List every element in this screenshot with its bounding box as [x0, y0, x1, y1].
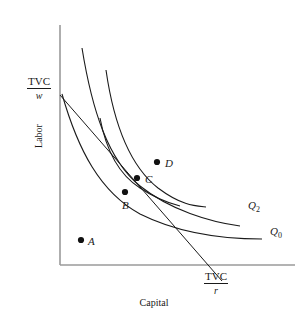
labor-intercept-denominator: w [27, 89, 51, 101]
capital-intercept-numerator: TVC [204, 270, 228, 284]
diagram-canvas [0, 0, 306, 324]
curve-label-q2-subscript: 2 [256, 205, 260, 214]
x-axis-title-wrapper: Capital [104, 292, 204, 310]
curve-label-q0-subscript: 0 [278, 231, 282, 240]
y-axis-title: Labor [33, 124, 44, 148]
x-axis-title: Capital [140, 297, 169, 308]
data-point-c [134, 175, 140, 181]
labor-intercept-numerator: TVC [27, 75, 51, 89]
point-label-c: C [145, 174, 152, 185]
isoquant-isocost-figure: TVC w TVC r A B C D Q2 Q0 Labor Capital [0, 0, 306, 324]
capital-intercept-label: TVC r [204, 270, 228, 296]
curve-label-q0: Q0 [270, 226, 282, 240]
data-point-d [154, 159, 160, 165]
point-label-d: D [165, 158, 173, 169]
y-axis-title-wrapper: Labor [28, 106, 44, 166]
isoquant-curve-q0 [62, 94, 262, 239]
curve-label-q2: Q2 [248, 200, 260, 214]
capital-intercept-denominator: r [204, 284, 228, 296]
point-label-b: B [122, 200, 129, 211]
curve-label-q2-base: Q [248, 199, 256, 211]
isoquant-curve-middle [106, 70, 206, 207]
point-label-a: A [88, 236, 95, 247]
data-point-b [122, 189, 128, 195]
labor-intercept-label: TVC w [27, 75, 51, 101]
isocost-line [60, 95, 222, 281]
data-point-a [78, 237, 84, 243]
curve-label-q0-base: Q [270, 225, 278, 237]
